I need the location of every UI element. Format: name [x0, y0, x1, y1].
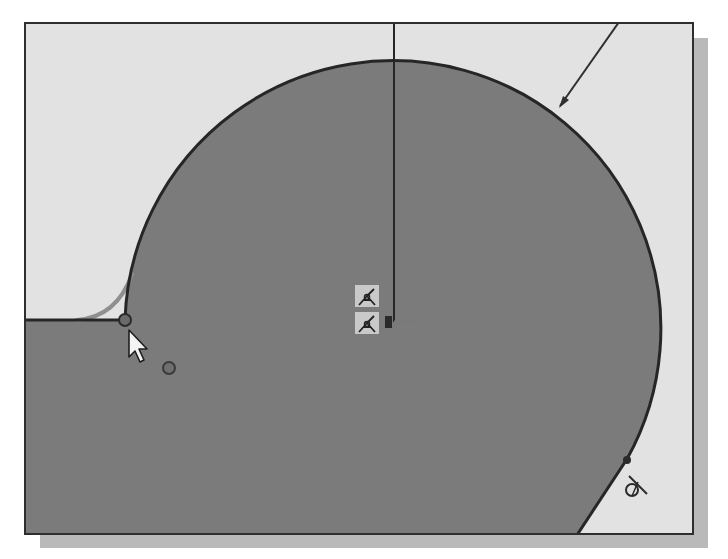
tangent-endpoint-marker[interactable] — [623, 456, 631, 464]
sketch-viewport[interactable] — [24, 22, 694, 535]
dimension-arrowhead — [559, 96, 569, 108]
tangent-constraint-icon[interactable] — [626, 476, 647, 496]
dimension-leader-line[interactable] — [560, 24, 619, 106]
coincident-constraint-icon[interactable] — [355, 285, 379, 307]
coincident-constraint-icon[interactable] — [355, 312, 379, 334]
snap-dot — [163, 362, 175, 374]
sketch-canvas[interactable] — [26, 24, 692, 533]
arc-endpoint-marker[interactable] — [119, 314, 131, 326]
fillet-preview-arc — [77, 274, 132, 320]
